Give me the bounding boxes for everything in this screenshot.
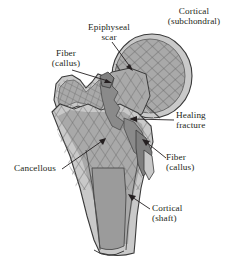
label-fiber-callus-right: Fiber (callus)	[166, 152, 214, 173]
label-healing-fracture: Healing fracture	[176, 110, 236, 131]
label-epiphyseal-scar: Epiphyseal scar	[78, 22, 140, 43]
label-fiber-callus-left: Fiber (callus)	[44, 48, 88, 69]
femoral-shaft	[48, 100, 158, 256]
label-cortical-shaft: Cortical (shaft)	[152, 203, 204, 224]
callus-cortical-bridge	[144, 150, 154, 180]
femur-fracture-diagram: Cortical (subchondral) Epiphyseal scar F…	[0, 0, 240, 265]
label-cortical-subchondral: Cortical (subchondral)	[152, 6, 236, 27]
label-cancellous: Cancellous	[4, 163, 66, 173]
